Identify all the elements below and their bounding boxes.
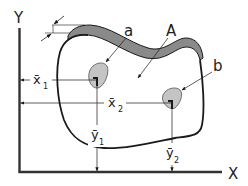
thickness-arrow-bottom [41, 34, 51, 41]
svg-text:1: 1 [43, 82, 48, 91]
svg-text:x̄: x̄ [33, 72, 41, 87]
svg-text:x̄: x̄ [108, 95, 116, 110]
thickness-arrow-top [54, 16, 64, 24]
centroid-diagram: Y X a A b x̄ 1 x̄ 2 ȳ [0, 0, 248, 186]
label-sub-area-b: b [213, 57, 223, 75]
sub-area-a-blob [89, 63, 108, 88]
shaded-wall-band [68, 25, 203, 60]
y-axis-label: Y [13, 9, 24, 27]
svg-text:ȳ: ȳ [166, 145, 174, 160]
label-sub-area-a: a [124, 22, 133, 40]
x-axis-label: X [228, 165, 238, 183]
leader-A [138, 38, 168, 78]
svg-text:ȳ: ȳ [91, 127, 99, 142]
svg-text:2: 2 [174, 156, 179, 165]
label-region-A: A [166, 22, 177, 40]
svg-text:2: 2 [118, 105, 123, 114]
leader-b [182, 72, 212, 90]
svg-text:1: 1 [99, 138, 104, 147]
